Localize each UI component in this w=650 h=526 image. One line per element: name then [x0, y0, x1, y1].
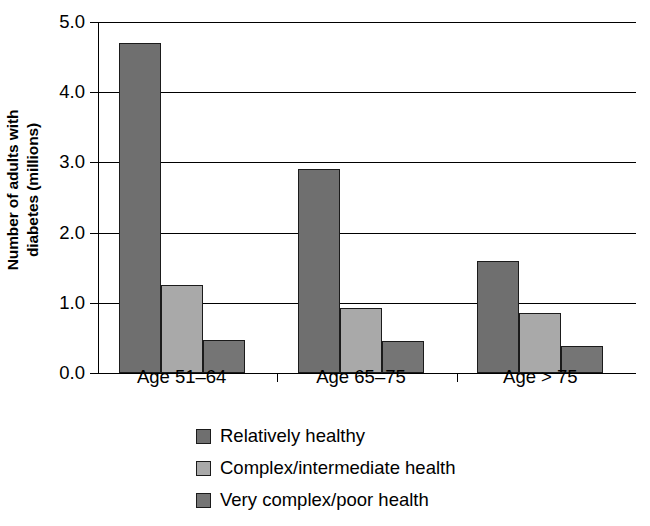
y-axis-tick — [90, 162, 98, 163]
legend-item-label: Relatively healthy — [220, 425, 365, 447]
y-axis-title: Number of adults with diabetes (millions… — [0, 0, 46, 380]
y-axis-title-line-2: diabetes (millions) — [23, 110, 43, 271]
y-axis-title-line-1: Number of adults with — [3, 110, 23, 271]
chart-legend: Relatively healthyComplex/intermediate h… — [196, 420, 616, 516]
y-axis-tick — [90, 233, 98, 234]
plot-area: 5.04.03.02.01.00.0 — [98, 22, 636, 373]
y-axis-tick — [90, 92, 98, 93]
y-axis-line — [98, 22, 99, 373]
y-axis-tick-label: 4.0 — [59, 81, 85, 103]
gridline — [98, 22, 636, 23]
bar — [119, 43, 161, 373]
y-axis-tick-label: 0.0 — [59, 362, 85, 384]
gridline — [98, 162, 636, 163]
x-axis-tick — [277, 373, 278, 382]
gridline — [98, 233, 636, 234]
y-axis-tick-label: 1.0 — [59, 292, 85, 314]
legend-item: Very complex/poor health — [196, 484, 616, 516]
legend-swatch-icon — [196, 493, 211, 508]
y-axis-tick — [90, 22, 98, 23]
legend-item: Complex/intermediate health — [196, 452, 616, 484]
bar — [298, 169, 340, 373]
bar-chart-figure: Number of adults with diabetes (millions… — [0, 0, 650, 526]
y-axis-tick-label: 3.0 — [59, 151, 85, 173]
legend-item-label: Complex/intermediate health — [220, 457, 456, 479]
x-axis-category-label: Age 51–64 — [137, 366, 227, 388]
y-axis-tick — [90, 303, 98, 304]
y-axis-tick — [90, 373, 98, 374]
x-axis-tick — [457, 373, 458, 382]
bar — [519, 313, 561, 373]
legend-item-label: Very complex/poor health — [220, 489, 429, 511]
bar — [161, 285, 203, 373]
y-axis-tick-label: 2.0 — [59, 222, 85, 244]
x-axis-category-label: Age 65–75 — [316, 366, 406, 388]
legend-swatch-icon — [196, 461, 211, 476]
legend-swatch-icon — [196, 429, 211, 444]
y-axis-tick-label: 5.0 — [59, 11, 85, 33]
gridline — [98, 92, 636, 93]
x-axis-category-label: Age > 75 — [503, 366, 578, 388]
legend-item: Relatively healthy — [196, 420, 616, 452]
bar — [477, 261, 519, 373]
bar — [340, 308, 382, 373]
